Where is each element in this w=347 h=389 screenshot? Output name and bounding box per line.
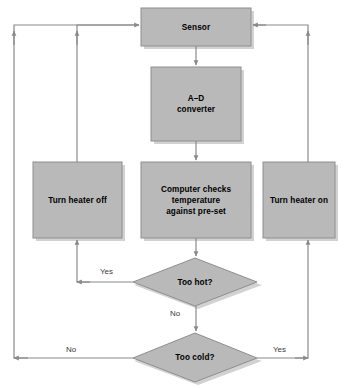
edge-label-too-cold-no: No: [66, 345, 76, 355]
edge-label-too-hot-yes: Yes: [100, 267, 113, 277]
node-too-cold: [133, 333, 257, 382]
edge-heater-on-to-sensor: [253, 25, 308, 162]
flowchart-diagram: Sensor A–D converter Computer checks tem…: [0, 0, 347, 389]
edge-label-too-hot-no: No: [170, 309, 180, 319]
node-sensor: [141, 8, 251, 46]
edge-label-too-cold-yes: Yes: [273, 345, 286, 355]
edge-too-cold-yes: [257, 240, 308, 358]
node-ad-converter: [151, 67, 241, 141]
node-too-hot: [133, 258, 257, 306]
node-turn-heater-off: [33, 162, 122, 238]
node-computer-checks: [141, 162, 251, 238]
edge-heater-off-to-sensor: [77, 25, 139, 162]
flowchart-canvas: [0, 0, 347, 389]
node-shapes: [33, 8, 335, 382]
node-turn-heater-on: [263, 162, 335, 238]
